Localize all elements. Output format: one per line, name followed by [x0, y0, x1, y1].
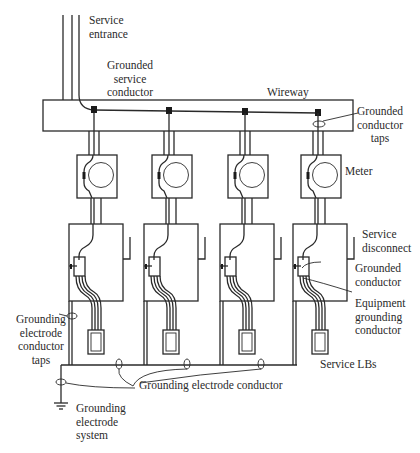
- label-equipment-grounding-conductor: Equipment grounding conductor: [355, 297, 405, 338]
- label-grounded-conductor-taps: Grounded conductor taps: [357, 105, 403, 146]
- label-grounded-conductor: Grounded conductor: [355, 262, 401, 289]
- label-meter: Meter: [345, 165, 372, 179]
- label-grounded-service-conductor: Grounded service conductor: [107, 59, 153, 100]
- label-service-entrance: Service entrance: [89, 14, 128, 41]
- tap-terminal-1: [91, 106, 97, 113]
- label-service-lbs: Service LBs: [320, 358, 377, 372]
- label-grounding-electrode-conductor: Grounding electrode conductor: [139, 379, 283, 393]
- label-grounding-electrode-system: Grounding electrode system: [76, 402, 126, 443]
- unit-3: [220, 113, 281, 365]
- tap-terminal-2: [166, 107, 172, 114]
- unit-1: [69, 113, 130, 365]
- wireway: [43, 100, 353, 131]
- label-service-disconnect: Service disconnect: [362, 228, 411, 255]
- label-grounding-electrode-conductor-taps: Grounding electrode conductor taps: [16, 313, 66, 367]
- grounded-service-conductor-bus: [94, 110, 318, 113]
- grounded-conductor-taps-marker: [313, 121, 325, 127]
- grounding-electrode-taps-markers: [56, 313, 264, 385]
- label-wireway: Wireway: [267, 86, 309, 100]
- ground-symbol-icon: [54, 403, 68, 409]
- unit-2: [144, 113, 205, 365]
- service-wiring-diagram: Service entrance Grounded service conduc…: [0, 0, 420, 453]
- unit-4: [293, 113, 354, 365]
- leader-lines: [59, 262, 352, 388]
